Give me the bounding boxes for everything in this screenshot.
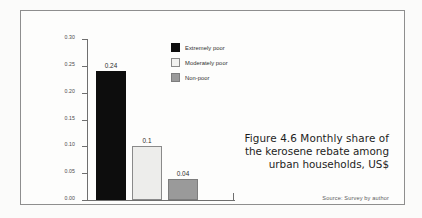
legend-label: Non-poor — [185, 75, 210, 81]
bar-value-label: 0.1 — [143, 137, 152, 144]
legend-item-extremely-poor: Extremely poor — [171, 40, 276, 55]
caption-line: urban households, US$ — [189, 158, 389, 171]
caption-line: Figure 4.6 Monthly share of — [189, 132, 389, 145]
figure-caption: Figure 4.6 Monthly share ofthe kerosene … — [189, 132, 389, 172]
caption-line: the kerosene rebate among — [189, 145, 389, 158]
source-note: Source: Survey by author — [189, 195, 389, 201]
legend-item-non-poor: Non-poor — [171, 70, 276, 85]
bar-extremely-poor: 0.24 — [96, 71, 126, 200]
y-axis-tick-label: 0.25 — [65, 61, 76, 67]
legend-item-moderately-poor: Moderately poor — [171, 55, 276, 70]
bar-value-label: 0.24 — [105, 62, 117, 69]
y-axis-tick: 0.20 — [82, 93, 87, 94]
bar-value-label: 0.04 — [177, 170, 189, 177]
legend-swatch-icon — [171, 58, 180, 67]
y-axis-line — [87, 39, 88, 201]
y-axis-tick: 0.05 — [82, 173, 87, 174]
y-axis-tick: 0.10 — [82, 146, 87, 147]
figure-frame: 0.300.250.200.150.100.050.00 0.240.10.04… — [20, 10, 405, 205]
legend-label: Moderately poor — [185, 60, 228, 66]
y-axis-tick-label: 0.10 — [65, 141, 76, 147]
y-axis-tick: 0.30 — [82, 39, 87, 40]
y-axis-tick: 0.15 — [82, 120, 87, 121]
y-axis-tick-label: 0.00 — [65, 195, 76, 201]
y-axis-tick-label: 0.05 — [65, 168, 76, 174]
figure-page: 0.300.250.200.150.100.050.00 0.240.10.04… — [0, 0, 422, 218]
y-axis-tick: 0.25 — [82, 66, 87, 67]
legend-swatch-icon — [171, 43, 180, 52]
bar-moderately-poor: 0.1 — [132, 146, 162, 200]
chart-legend: Extremely poorModerately poorNon-poor — [171, 40, 276, 85]
y-axis-tick-label: 0.30 — [65, 34, 76, 40]
legend-label: Extremely poor — [185, 45, 225, 51]
y-axis-tick-label: 0.20 — [65, 88, 76, 94]
y-axis-tick-label: 0.15 — [65, 115, 76, 121]
y-axis-tick: 0.00 — [82, 200, 87, 201]
legend-swatch-icon — [171, 73, 180, 82]
